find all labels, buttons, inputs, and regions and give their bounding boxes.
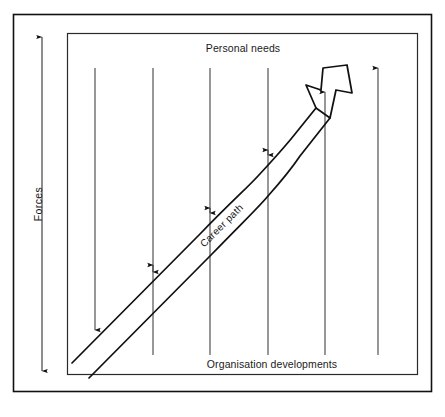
label-career-path: Career path <box>198 202 245 249</box>
label-organisation-developments: Organisation developments <box>207 358 337 370</box>
career-path-figure: Personal needs Organisation developments… <box>0 0 445 417</box>
label-forces: Forces <box>32 187 44 222</box>
organisation-developments-arrows <box>153 92 325 355</box>
label-personal-needs: Personal needs <box>206 42 280 54</box>
career-path-arrowhead <box>306 65 352 118</box>
inner-border <box>68 34 418 375</box>
outer-border <box>14 15 432 392</box>
personal-needs-arrows <box>95 68 268 330</box>
career-path-upper-edge <box>72 108 316 363</box>
career-path-band <box>72 65 352 378</box>
diagram-canvas: Personal needs Organisation developments… <box>0 0 445 417</box>
